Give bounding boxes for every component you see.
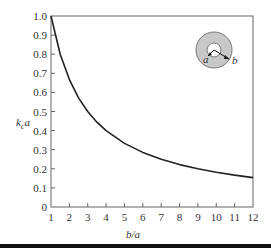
x-tick-label: 5 [122, 211, 128, 223]
x-tick-label: 2 [67, 211, 73, 223]
coax-inset-icon: a b [196, 32, 238, 68]
x-axis: 123456789101112 [48, 203, 258, 223]
bottom-rule [0, 244, 271, 248]
x-axis-label: b/a [126, 228, 141, 240]
chart: 00.10.20.30.40.50.60.70.80.91.0 12345678… [0, 0, 271, 249]
x-tick-label: 9 [195, 211, 201, 223]
x-tick-label: 12 [248, 211, 259, 223]
y-tick-label: 0.8 [33, 48, 47, 60]
y-tick-label: 0.3 [33, 144, 47, 156]
x-tick-label: 6 [140, 211, 146, 223]
y-tick-label: 0.2 [33, 163, 47, 175]
x-tick-label: 3 [85, 211, 91, 223]
y-axis-label: kca [16, 116, 30, 131]
y-tick-label: 0 [42, 201, 48, 213]
y-tick-label: 0.7 [33, 67, 47, 79]
inset-label-b: b [232, 54, 238, 66]
x-tick-label: 11 [229, 211, 240, 223]
x-tick-label: 7 [158, 211, 164, 223]
y-tick-label: 0.6 [33, 86, 47, 98]
y-tick-label: 0.5 [33, 106, 47, 118]
x-tick-label: 1 [48, 211, 54, 223]
x-tick-label: 8 [177, 211, 183, 223]
x-tick-label: 10 [211, 211, 223, 223]
inset-label-a: a [203, 53, 209, 65]
y-tick-label: 0.1 [33, 182, 47, 194]
y-axis: 00.10.20.30.40.50.60.70.80.91.0 [33, 10, 55, 213]
y-tick-label: 0.4 [33, 125, 47, 137]
y-tick-label: 0.9 [33, 29, 47, 41]
y-tick-label: 1.0 [33, 10, 47, 22]
x-tick-label: 4 [103, 211, 109, 223]
